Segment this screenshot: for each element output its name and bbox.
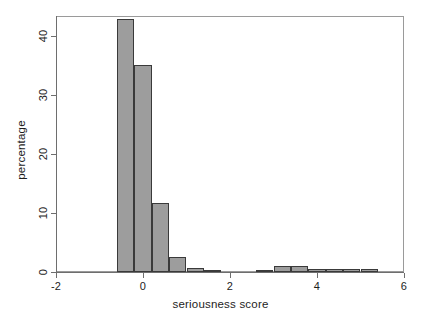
y-axis-title: percentage — [15, 80, 27, 220]
x-tick-label: -2 — [51, 280, 61, 292]
x-tick-mark — [56, 273, 57, 278]
x-tick-mark — [317, 273, 318, 278]
histogram-bar — [117, 19, 134, 272]
x-tick-label: 2 — [227, 280, 233, 292]
x-tick-label: 0 — [140, 280, 146, 292]
x-tick-mark — [230, 273, 231, 278]
y-axis-line — [56, 16, 57, 272]
y-tick-mark — [51, 36, 56, 37]
x-tick-mark — [143, 273, 144, 278]
y-tick-mark — [51, 154, 56, 155]
y-tick-mark — [51, 213, 56, 214]
y-tick-mark — [51, 95, 56, 96]
x-tick-label: 6 — [401, 280, 407, 292]
histogram-bar — [134, 65, 151, 272]
x-tick-mark — [404, 273, 405, 278]
y-tick-mark — [51, 272, 56, 273]
plot-area — [57, 17, 403, 272]
y-tick-label: 30 — [37, 88, 49, 102]
y-tick-label: 40 — [37, 29, 49, 43]
histogram-figure: -20246 010203040 seriousness score perce… — [0, 0, 441, 318]
y-tick-label: 10 — [37, 206, 49, 220]
x-axis-title: seriousness score — [0, 298, 441, 310]
y-tick-label: 20 — [37, 147, 49, 161]
x-tick-label: 4 — [314, 280, 320, 292]
histogram-bar — [152, 203, 169, 272]
histogram-bar — [169, 257, 186, 272]
y-tick-label: 0 — [37, 265, 49, 279]
